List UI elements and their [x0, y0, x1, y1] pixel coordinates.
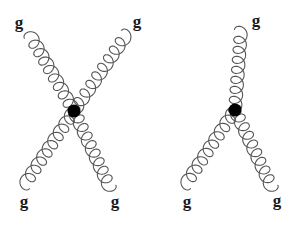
gluon-line: [229, 26, 248, 113]
gluon-label: g: [183, 193, 192, 210]
gluon-label: g: [15, 14, 24, 31]
gluon-line: [230, 105, 278, 191]
gluon-line: [68, 29, 131, 114]
gluon-label: g: [252, 12, 261, 29]
three-gluon-vertex-diagram: [181, 26, 278, 191]
gluon-label: g: [273, 192, 282, 209]
gluon-line: [24, 32, 78, 116]
vertex-dot: [229, 104, 242, 117]
gluon-label: g: [111, 193, 120, 210]
gluon-line: [69, 106, 116, 191]
feynman-diagrams: [0, 0, 301, 226]
four-gluon-vertex-diagram: [20, 29, 131, 191]
vertex-dot: [68, 105, 81, 118]
gluon-label: g: [20, 193, 29, 210]
gluon-label: g: [133, 13, 142, 30]
